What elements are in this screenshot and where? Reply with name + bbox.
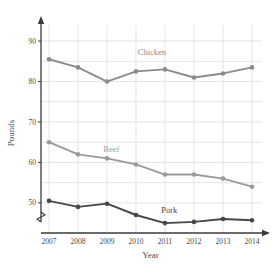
- x-tick-label: 2012: [187, 237, 202, 246]
- series-label-beef: Beef: [103, 144, 119, 154]
- y-tick-label: 60: [29, 158, 37, 167]
- series-label-pork: Pork: [161, 205, 178, 215]
- x-tick-label: 2008: [71, 237, 86, 246]
- x-tick-label: 2009: [100, 237, 115, 246]
- y-tick-label: 50: [29, 198, 37, 207]
- line-chart: ChickenBeefPork 506070809020072008200920…: [0, 0, 277, 277]
- chart-canvas: ChickenBeefPork 506070809020072008200920…: [0, 0, 277, 277]
- x-axis-title: Year: [142, 250, 159, 260]
- x-tick-label: 2013: [216, 237, 231, 246]
- x-tick-label: 2014: [245, 237, 260, 246]
- y-tick-label: 70: [29, 118, 37, 127]
- x-tick-label: 2010: [129, 237, 144, 246]
- tick-labels: 5060708090200720082009201020112012201320…: [29, 37, 260, 246]
- y-axis-title: Pounds: [6, 119, 16, 146]
- y-tick-label: 80: [29, 77, 37, 86]
- y-tick-label: 90: [29, 37, 37, 46]
- x-tick-label: 2011: [158, 237, 173, 246]
- series-label-chicken: Chicken: [138, 47, 167, 57]
- x-tick-label: 2007: [42, 237, 57, 246]
